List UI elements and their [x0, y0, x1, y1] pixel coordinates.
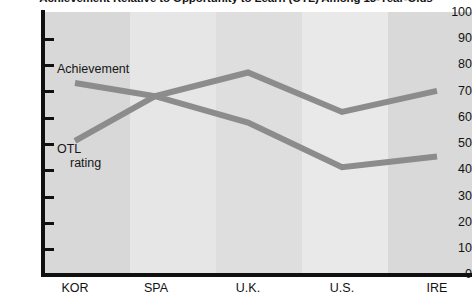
series-label-otl-line2: rating — [70, 156, 101, 170]
series-line-otl — [75, 96, 437, 167]
chart-container: Achievement Relative to Opportunity to L… — [0, 0, 472, 301]
series-label-achievement: Achievement — [57, 62, 129, 76]
series-line-achievement — [75, 73, 437, 112]
series-label-otl-line1: OTL — [57, 142, 81, 156]
series-label-otl: OTL rating — [57, 142, 101, 170]
